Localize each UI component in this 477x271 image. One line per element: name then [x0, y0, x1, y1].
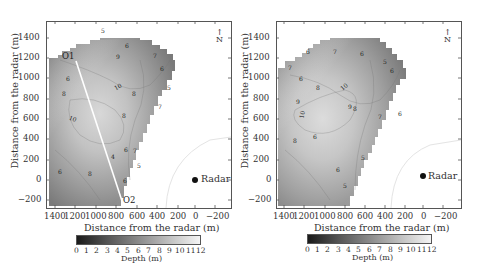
contour-label: 9: [296, 98, 300, 105]
contour-label: 7: [333, 48, 337, 55]
y-tick-label: 600: [253, 113, 269, 123]
contour-label: 6: [299, 75, 303, 82]
colorbar-tick: 10: [406, 245, 416, 254]
colorbar: [307, 234, 432, 244]
y-tick-label: 1000: [248, 72, 270, 82]
contour-label: 6: [398, 110, 402, 117]
contour-label: 8: [316, 84, 320, 91]
x-tick-label: 800: [337, 211, 353, 221]
x-tick-label: 0: [421, 211, 426, 221]
x-axis-label: Distance from the radar (m): [314, 222, 449, 233]
colorbar-tick: 2: [325, 245, 330, 254]
x-tick-label: 1000: [314, 211, 336, 221]
x-tick-label: 200: [397, 211, 413, 221]
x-tick-label: 600: [357, 211, 373, 221]
y-tick-label: 400: [253, 133, 269, 143]
x-tick-label: 400: [377, 211, 393, 221]
contour-label: 6: [313, 133, 317, 140]
y-tick-label: 1400: [248, 32, 270, 42]
contour-label: 5: [343, 182, 347, 189]
contour-label: 6: [390, 67, 394, 74]
contour-label: 8: [353, 105, 357, 112]
colorbar-tick: 0: [305, 245, 310, 254]
north-arrow: ↑ N: [444, 29, 451, 43]
colorbar-tick: 9: [398, 245, 403, 254]
colorbar-tick: 1: [315, 245, 320, 254]
contour-label: 5: [383, 58, 387, 65]
contour-label: 8: [293, 137, 297, 144]
contour-label: 10: [298, 110, 306, 119]
contour-label: 6: [336, 166, 340, 173]
radar-marker: [420, 173, 426, 179]
contour-label: 6: [360, 50, 364, 57]
colorbar-tick: 3: [336, 245, 341, 254]
contour-label: 9: [348, 103, 352, 110]
radar-label: Radar: [428, 170, 457, 181]
right-panel: 6 7 6 5 6 7 6 8 10 9 10 9 8 7 6 8 6 5 6 …: [0, 0, 477, 271]
contour-label: 5: [361, 154, 365, 161]
x-tick-label: 1200: [293, 211, 315, 221]
colorbar-label: Depth (m): [352, 253, 393, 262]
y-tick-label: 0: [266, 174, 271, 184]
y-tick-label: 800: [253, 93, 269, 103]
colorbar-tick: 4: [346, 245, 351, 254]
north-label: N: [444, 35, 451, 44]
y-tick-label: 1200: [248, 52, 270, 62]
colorbar-tick: 11: [417, 245, 427, 254]
x-tick-label: 1400: [273, 211, 295, 221]
y-axis-label: Distance from the radar (m): [239, 59, 250, 169]
y-tick-label: 200: [253, 154, 269, 164]
contour-label: 7: [288, 64, 292, 71]
x-tick-label: −200: [434, 211, 457, 221]
y-tick-label: −200: [248, 194, 271, 204]
contour-label: 6: [306, 48, 310, 55]
colorbar-tick: 12: [427, 245, 437, 254]
contour-label: 7: [378, 113, 382, 120]
